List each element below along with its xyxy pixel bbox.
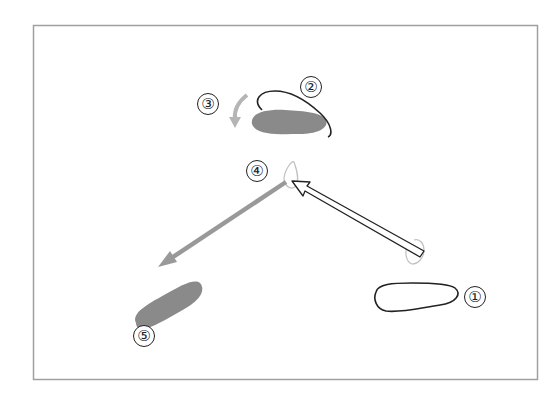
shape-5-filled-blob	[135, 281, 202, 329]
step-label-3: ③	[197, 93, 219, 115]
step-label-2: ②	[300, 76, 322, 98]
step-label-5: ⑤	[133, 325, 155, 347]
shape-1-outline-blob	[375, 283, 458, 311]
step-label-4: ④	[246, 160, 268, 182]
step-label-1: ①	[464, 286, 486, 308]
diagram-svg	[0, 0, 552, 401]
shape-2-filled-blob	[252, 110, 327, 134]
rotation-arrow-3	[235, 95, 247, 119]
diagram-canvas: ① ② ③ ④ ⑤	[0, 0, 552, 401]
gray-arrow-head	[158, 251, 177, 267]
diagram-frame	[34, 26, 538, 380]
white-arrow	[292, 181, 424, 257]
rotation-arrow-3-head	[229, 117, 241, 128]
gray-arrow-shaft	[170, 182, 286, 259]
